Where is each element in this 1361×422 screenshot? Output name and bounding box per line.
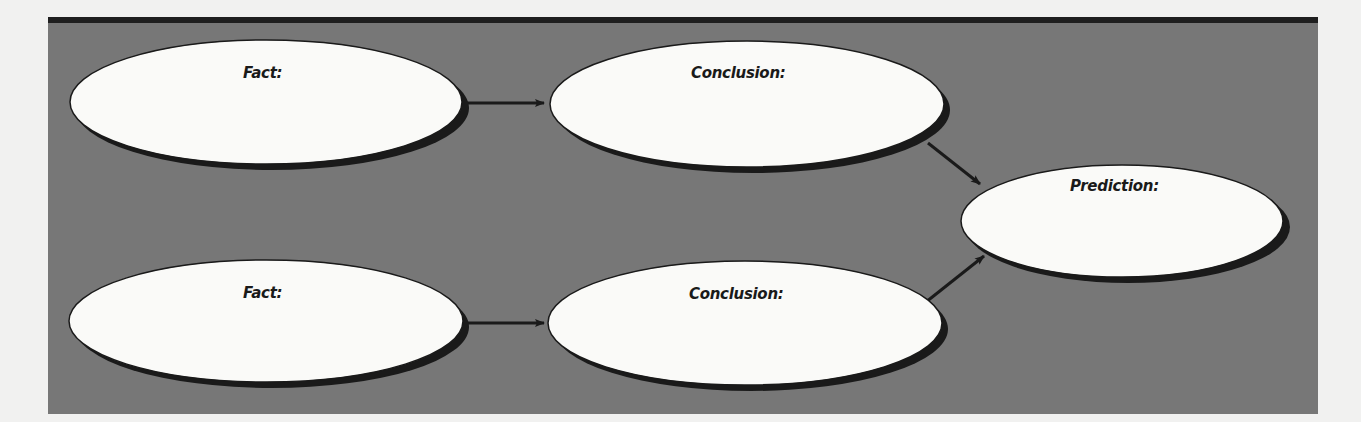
node-conclusion2 bbox=[548, 261, 948, 391]
conclusion2-label: Conclusion: bbox=[689, 287, 783, 302]
node-ellipse bbox=[70, 40, 462, 164]
diagram-page: Fact: Conclusion: Fact: Conclusion: Pred… bbox=[0, 0, 1361, 422]
edge-conclusion1-prediction bbox=[928, 143, 980, 184]
node-fact2 bbox=[69, 260, 469, 388]
edge-conclusion2-prediction bbox=[926, 256, 984, 302]
node-ellipse bbox=[548, 261, 942, 385]
node-ellipse bbox=[550, 41, 944, 167]
node-ellipse bbox=[69, 260, 463, 382]
flow-diagram bbox=[0, 0, 1361, 422]
node-conclusion1 bbox=[550, 41, 950, 173]
fact2-label: Fact: bbox=[243, 286, 282, 301]
conclusion1-label: Conclusion: bbox=[691, 66, 785, 81]
node-fact1 bbox=[70, 40, 469, 170]
fact1-label: Fact: bbox=[243, 66, 282, 81]
prediction-label: Prediction: bbox=[1070, 179, 1159, 194]
